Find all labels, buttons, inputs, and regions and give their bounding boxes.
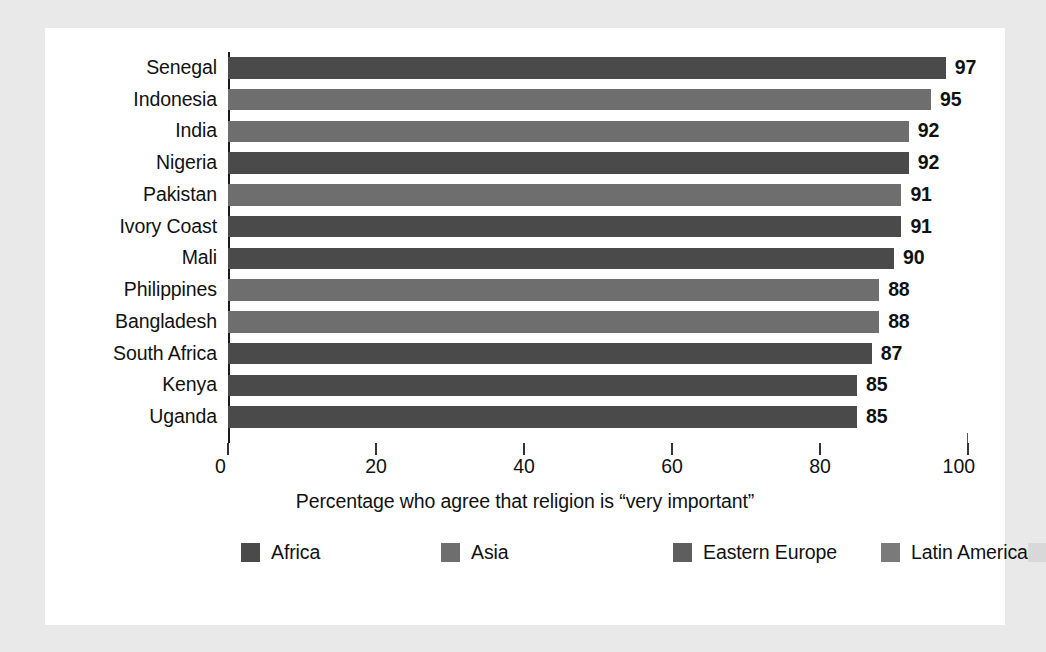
legend-item[interactable]: Africa: [241, 541, 441, 564]
category-label: Bangladesh: [115, 309, 217, 332]
bar-row: 90: [228, 248, 968, 270]
bar-value-label: 85: [866, 373, 887, 396]
legend-swatch-icon: [881, 543, 900, 562]
bar-value-label: 88: [888, 278, 909, 301]
axis-tick: [819, 443, 821, 455]
category-label: Ivory Coast: [119, 214, 217, 237]
category-label: Nigeria: [156, 151, 217, 174]
bar-row: 92: [228, 152, 968, 174]
bar: [228, 343, 872, 365]
bar-row: 85: [228, 406, 968, 428]
bar-row: 87: [228, 343, 968, 365]
axis-tick-label: 20: [365, 455, 387, 478]
axis-tick: [671, 443, 673, 455]
category-label: Senegal: [146, 55, 217, 78]
axis-tick: [523, 443, 525, 455]
bar-row: 97: [228, 57, 968, 79]
bar: [228, 121, 909, 143]
category-label: India: [175, 119, 217, 142]
chart-card: SenegalIndonesiaIndiaNigeriaPakistanIvor…: [45, 28, 1005, 625]
x-axis-title: Percentage who agree that religion is “v…: [45, 490, 1005, 513]
plot-area: 979592929191908888878585: [228, 52, 968, 433]
bar-row: 91: [228, 216, 968, 238]
bar-value-label: 88: [888, 310, 909, 333]
bar: [228, 184, 901, 206]
legend-item[interactable]: Eastern Europe: [673, 541, 881, 564]
legend-swatch-icon: [441, 543, 460, 562]
legend-swatch-icon: [241, 543, 260, 562]
axis-tick-label: 60: [661, 455, 683, 478]
bar-value-label: 95: [940, 88, 961, 111]
bar-row: 85: [228, 375, 968, 397]
legend-item[interactable]: North America: [1028, 541, 1046, 564]
category-label: Uganda: [149, 405, 217, 428]
bar-row: 91: [228, 184, 968, 206]
bar-value-label: 92: [918, 151, 939, 174]
bar: [228, 311, 879, 333]
bar-value-label: 97: [955, 56, 976, 79]
legend-swatch-icon: [1028, 543, 1046, 562]
category-label: Kenya: [162, 373, 217, 396]
category-axis-labels: SenegalIndonesiaIndiaNigeriaPakistanIvor…: [45, 52, 217, 433]
page-background: SenegalIndonesiaIndiaNigeriaPakistanIvor…: [0, 0, 1046, 652]
bar-row: 95: [228, 89, 968, 111]
category-label: Philippines: [124, 278, 217, 301]
axis-tick: [375, 443, 377, 455]
legend-label: Africa: [271, 541, 320, 564]
bar: [228, 152, 909, 174]
axis-tick-label: 80: [809, 455, 831, 478]
bar-row: 92: [228, 121, 968, 143]
bar: [228, 57, 946, 79]
bar-value-label: 87: [881, 342, 902, 365]
bar-value-label: 91: [910, 183, 931, 206]
bar: [228, 248, 894, 270]
bar: [228, 89, 931, 111]
bar-row: 88: [228, 279, 968, 301]
axis-tick: [227, 443, 229, 455]
axis-tick-label: 0: [215, 455, 226, 478]
bar-row: 88: [228, 311, 968, 333]
axis-tick-label: 100: [943, 455, 976, 478]
category-label: Mali: [182, 246, 217, 269]
bar: [228, 279, 879, 301]
legend-swatch-icon: [673, 543, 692, 562]
legend-label: Eastern Europe: [703, 541, 837, 564]
legend-item[interactable]: Latin America: [881, 541, 1028, 564]
category-label: Indonesia: [133, 87, 217, 110]
bar: [228, 406, 857, 428]
category-label: Pakistan: [143, 182, 217, 205]
value-axis-ticks: 020406080100: [228, 443, 968, 489]
category-label: South Africa: [113, 341, 217, 364]
legend-label: Latin America: [911, 541, 1028, 564]
bar-value-label: 90: [903, 246, 924, 269]
bar: [228, 216, 901, 238]
bar: [228, 375, 857, 397]
bar-value-label: 91: [910, 215, 931, 238]
legend-label: Asia: [471, 541, 509, 564]
axis-tick: [967, 443, 969, 455]
bar-value-label: 92: [918, 119, 939, 142]
legend-item[interactable]: Asia: [441, 541, 673, 564]
axis-tick-label: 40: [513, 455, 535, 478]
chart-legend: AfricaAsiaEastern EuropeLatin AmericaNor…: [241, 536, 881, 569]
bar-value-label: 85: [866, 405, 887, 428]
